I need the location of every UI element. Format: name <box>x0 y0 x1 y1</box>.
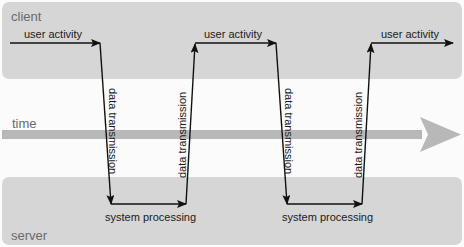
data-transmission-label-3: data transmission <box>283 88 295 174</box>
user-activity-label-3: user activity <box>381 28 440 40</box>
diagram-svg: client server time user activity user ac… <box>0 0 464 247</box>
server-label: server <box>11 228 48 243</box>
user-activity-label-1: user activity <box>24 28 83 40</box>
user-activity-label-2: user activity <box>204 28 263 40</box>
client-server-timeline-diagram: client server time user activity user ac… <box>0 0 464 247</box>
data-transmission-label-1: data transmission <box>107 88 119 174</box>
time-arrow <box>2 117 461 152</box>
data-transmission-label-2: data transmission <box>176 92 188 178</box>
data-transmission-label-4: data transmission <box>352 92 364 178</box>
server-lane <box>2 177 462 245</box>
system-processing-label-2: system processing <box>282 211 373 223</box>
client-lane <box>2 2 462 79</box>
time-label: time <box>12 116 37 131</box>
client-label: client <box>11 9 42 24</box>
system-processing-label-1: system processing <box>105 211 196 223</box>
